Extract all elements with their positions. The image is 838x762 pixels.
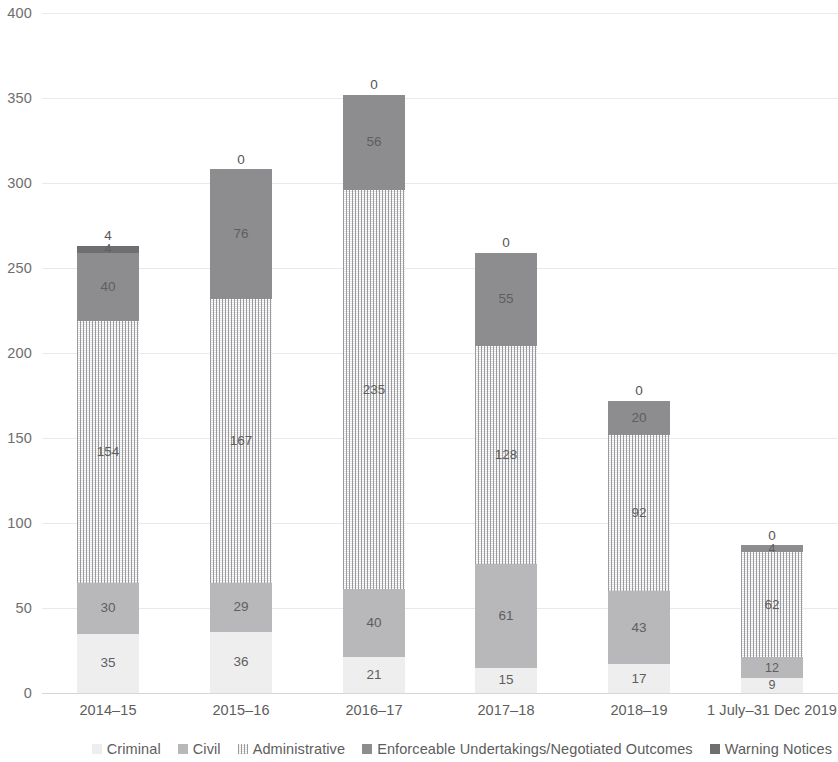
bar-segment[interactable]: 9: [741, 678, 803, 693]
legend-item[interactable]: Enforceable Undertakings/Negotiated Outc…: [362, 742, 693, 757]
bar-segment[interactable]: 43: [608, 591, 670, 664]
plot-area: 4003503002502001501005004401543035476167…: [42, 13, 838, 693]
bar-segment[interactable]: 29: [210, 583, 272, 632]
bar-group[interactable]: 5623540210: [343, 95, 405, 693]
bar-segment[interactable]: 76: [210, 169, 272, 298]
bar-segment[interactable]: 235: [343, 190, 405, 590]
legend-swatch-icon: [362, 744, 372, 754]
gridline-350: [42, 98, 838, 99]
bar-group[interactable]: 4621290: [741, 545, 803, 693]
y-tick-label-200: 200: [0, 346, 32, 361]
bar-segment[interactable]: 55: [475, 253, 537, 347]
gridline-100: [42, 523, 838, 524]
y-tick-label-400: 400: [0, 6, 32, 21]
bar-segment[interactable]: 167: [210, 299, 272, 583]
y-tick-label-150: 150: [0, 431, 32, 446]
bar-segment-value: 43: [608, 621, 670, 635]
bar-top-value: 4: [77, 229, 139, 243]
bar-segment-value: 40: [343, 617, 405, 631]
bar-segment-value: 128: [475, 448, 537, 462]
bar-top-value: 0: [475, 236, 537, 250]
bar-segment[interactable]: 128: [475, 346, 537, 564]
bar-segment-value: 56: [343, 135, 405, 149]
bar-segment-value: 17: [608, 672, 670, 686]
bar-segment-value: 9: [741, 679, 803, 692]
gridline-150: [42, 438, 838, 439]
y-tick-label-100: 100: [0, 516, 32, 531]
x-tick-label: 2018–19: [573, 700, 706, 720]
y-tick-label-0: 0: [0, 686, 32, 701]
legend-label: Administrative: [253, 742, 345, 757]
bar-segment-value: 29: [210, 600, 272, 614]
y-tick-label-50: 50: [0, 601, 32, 616]
bar-group[interactable]: 44015430354: [77, 246, 139, 693]
bar-top-value: 0: [343, 78, 405, 92]
legend-swatch-icon: [178, 744, 188, 754]
bar-segment[interactable]: 4: [77, 246, 139, 253]
gridline-250: [42, 268, 838, 269]
bar-segment[interactable]: 17: [608, 664, 670, 693]
legend-label: Warning Notices: [725, 742, 832, 757]
bar-segment[interactable]: 12: [741, 657, 803, 677]
x-tick-label: 2014–15: [42, 700, 175, 720]
bar-segment-value: 167: [210, 434, 272, 448]
bar-segment[interactable]: 40: [343, 589, 405, 657]
bar-segment-value: 36: [210, 656, 272, 670]
gridline-400: [42, 13, 838, 14]
legend-swatch-icon: [238, 744, 248, 754]
bar-segment[interactable]: 92: [608, 435, 670, 591]
bar-top-value: 0: [608, 384, 670, 398]
x-tick-label: 2015–16: [175, 700, 308, 720]
bar-segment-value: 154: [77, 445, 139, 459]
bar-segment-value: 76: [210, 227, 272, 241]
bar-segment[interactable]: 4: [741, 545, 803, 552]
chart-legend: CriminalCivilAdministrativeEnforceable U…: [0, 736, 838, 762]
gridline-300: [42, 183, 838, 184]
legend-label: Civil: [193, 742, 221, 757]
bar-group[interactable]: 7616729360: [210, 169, 272, 693]
bar-segment[interactable]: 36: [210, 632, 272, 693]
bar-segment-value: 30: [77, 601, 139, 615]
x-tick-label: 2016–17: [308, 700, 441, 720]
legend-label: Criminal: [107, 742, 161, 757]
bar-segment[interactable]: 21: [343, 657, 405, 693]
bar-segment[interactable]: 61: [475, 564, 537, 668]
x-tick-label: 2017–18: [440, 700, 573, 720]
bar-segment[interactable]: 35: [77, 634, 139, 694]
bar-segment[interactable]: 154: [77, 321, 139, 583]
bar-top-value: 0: [210, 153, 272, 167]
y-tick-label-250: 250: [0, 261, 32, 276]
bar-segment[interactable]: 40: [77, 253, 139, 321]
bar-segment[interactable]: 56: [343, 95, 405, 190]
bar-segment[interactable]: 20: [608, 401, 670, 435]
x-axis: 2014–152015–162016–172017–182018–191 Jul…: [42, 700, 838, 724]
legend-item[interactable]: Warning Notices: [710, 742, 832, 757]
bar-segment[interactable]: 62: [741, 552, 803, 657]
bar-segment-value: 21: [343, 668, 405, 682]
bar-segment-value: 35: [77, 657, 139, 671]
bar-segment[interactable]: 30: [77, 583, 139, 634]
bar-segment-value: 235: [343, 383, 405, 397]
bar-segment-value: 55: [475, 293, 537, 307]
bar-segment-value: 61: [475, 609, 537, 623]
legend-item[interactable]: Civil: [178, 742, 221, 757]
stacked-bar-chart: 4003503002502001501005004401543035476167…: [0, 0, 838, 762]
y-tick-label-350: 350: [0, 91, 32, 106]
bar-segment-value: 40: [77, 280, 139, 294]
legend-label: Enforceable Undertakings/Negotiated Outc…: [377, 742, 693, 757]
bar-segment-value: 62: [741, 598, 803, 612]
bar-top-value: 0: [741, 529, 803, 543]
legend-item[interactable]: Administrative: [238, 742, 345, 757]
bar-segment[interactable]: 15: [475, 668, 537, 694]
x-tick-label: 1 July–31 Dec 2019: [706, 700, 838, 720]
legend-swatch-icon: [710, 744, 720, 754]
bar-segment-value: 15: [475, 674, 537, 688]
gridline-200: [42, 353, 838, 354]
legend-swatch-icon: [92, 744, 102, 754]
gridline-0: [42, 693, 838, 694]
gridline-50: [42, 608, 838, 609]
bar-segment-value: 92: [608, 506, 670, 520]
legend-item[interactable]: Criminal: [92, 742, 161, 757]
bar-group[interactable]: 5512861150: [475, 253, 537, 693]
bar-group[interactable]: 209243170: [608, 401, 670, 693]
